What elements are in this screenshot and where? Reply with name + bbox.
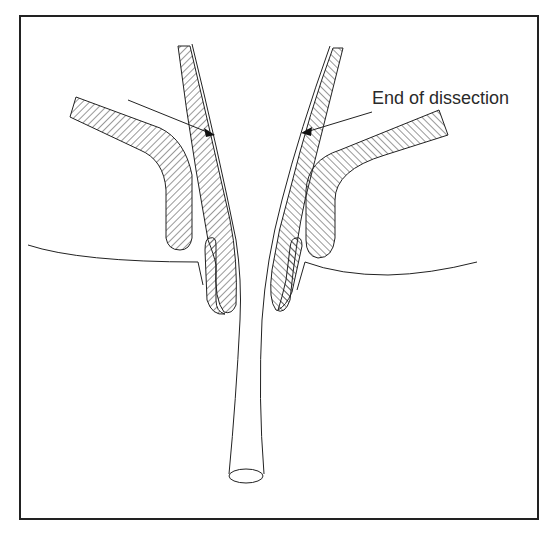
annotation-label: End of dissection <box>372 88 509 109</box>
left-outer-tissue <box>70 97 192 250</box>
dissection-diagram <box>0 0 558 536</box>
right-skin-line <box>297 262 477 290</box>
vessel-end <box>229 469 263 483</box>
left-skin-line <box>28 245 203 285</box>
right-outer-tissue <box>306 110 448 258</box>
